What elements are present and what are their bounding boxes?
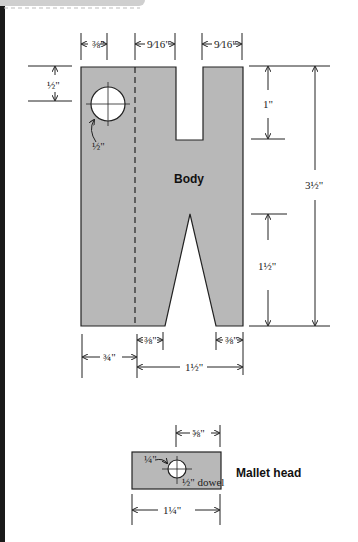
dim-head-hole-offset: ¼" (144, 453, 157, 465)
dim-hole-offset: ½" (47, 79, 60, 91)
body-part (81, 67, 243, 326)
dim-slot-depth: 1" (263, 98, 273, 110)
head-label: Mallet head (236, 466, 301, 480)
dim-head-width: 1¼" (163, 504, 181, 516)
dim-bottom-left: ¾" (103, 351, 116, 363)
dim-top-mid: 9⁄16" (147, 38, 170, 50)
dim-bottom-right-foot: ⅜" (225, 334, 238, 346)
dim-top-right: 9⁄16" (214, 38, 237, 50)
dim-head-dowel: ½" dowel (182, 476, 224, 488)
dim-vee-height: 1½" (258, 260, 276, 272)
dim-head-top: ⅝" (192, 427, 205, 439)
dim-bottom-left-foot: ⅜" (144, 334, 157, 346)
dim-top-left: ⅜" (92, 38, 105, 50)
diagram-canvas: ⅜" 9⁄16" 9⁄16" ½" ½" 1" 3½" 1½" Body ⅜" … (0, 0, 358, 542)
dim-bottom-right: 1½" (185, 361, 203, 373)
dim-overall-height: 3½" (305, 179, 323, 191)
dim-hole-diameter: ½" (92, 140, 105, 152)
body-label: Body (174, 172, 204, 186)
